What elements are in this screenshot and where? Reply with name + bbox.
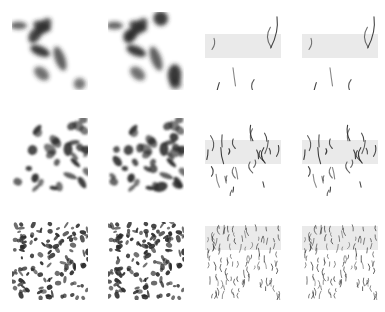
texture-panel-r1-c3 <box>205 12 281 90</box>
texture-panel-r2-c3 <box>205 118 281 196</box>
texture-panel-r2-c2 <box>108 118 184 196</box>
texture-panel-r1-c4 <box>302 12 378 90</box>
texture-panel-r3-c3 <box>205 222 281 300</box>
texture-panel-r1-c2 <box>108 12 184 90</box>
texture-panel-r3-c4 <box>302 222 378 300</box>
texture-panel-r2-c4 <box>302 118 378 196</box>
texture-panel-r2-c1 <box>12 118 88 196</box>
texture-panel-r1-c1 <box>12 12 88 90</box>
texture-panel-r3-c1 <box>12 222 88 300</box>
texture-panel-r3-c2 <box>108 222 184 300</box>
